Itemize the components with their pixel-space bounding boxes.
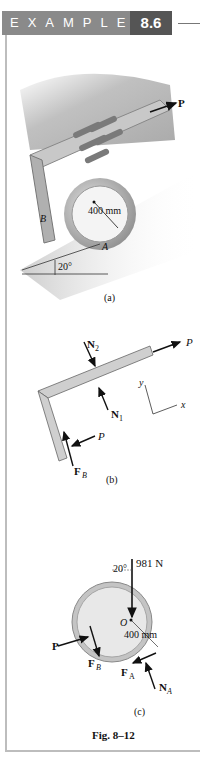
force-p-label: P (178, 97, 185, 109)
n1-label: N (111, 408, 119, 420)
n2-label: N (87, 338, 95, 350)
fb-arrow (64, 432, 73, 466)
caption-a: (a) (104, 292, 115, 304)
point-a-label: A (101, 241, 109, 252)
bracket-arm (38, 346, 153, 398)
p-top-arrow (153, 342, 180, 352)
p-top-label: P (185, 336, 193, 348)
axes (145, 385, 177, 414)
angle-label: 20° (58, 261, 72, 272)
bracket-leg (30, 155, 55, 243)
angle-label: 20° (113, 563, 127, 574)
fb-label: F (88, 657, 95, 669)
weight-label: 981 N (136, 557, 163, 569)
svg-text:B: B (96, 663, 101, 672)
na-label: N (159, 681, 167, 693)
fa-arrow (133, 653, 156, 663)
svg-text:1: 1 (119, 414, 123, 423)
axis-x-label: x (180, 399, 186, 410)
caption-b: (b) (106, 474, 118, 486)
p-bottom-arrow (72, 436, 95, 446)
axis-y-label: y (138, 377, 144, 388)
bracket-leg (38, 391, 67, 461)
radius-label: 400 mm (88, 205, 121, 216)
figure-caption: Fig. 8–12 (92, 729, 135, 741)
p-label: P (52, 640, 59, 652)
svg-text:B: B (82, 471, 87, 480)
p-bottom-label: P (97, 430, 105, 442)
pipe-inner (77, 587, 147, 657)
svg-text:2: 2 (95, 344, 99, 353)
figure-svg: P 400 mm B A 20° (a) N 2 N 1 P P F B y x… (0, 0, 200, 762)
svg-text:A: A (129, 672, 135, 681)
point-b-label: B (40, 213, 46, 224)
caption-c: (c) (134, 706, 145, 718)
radius-label: 400 mm (124, 629, 157, 640)
n1-arrow (99, 388, 108, 410)
na-arrow (146, 663, 155, 689)
fb-label: F (74, 465, 81, 477)
figure-a: P 400 mm B A 20° (a) (20, 74, 200, 304)
svg-text:A: A (166, 687, 172, 696)
figure-c: 981 N 20° O 400 mm P F B F A N A (c) (52, 557, 172, 718)
figure-b: N 2 N 1 P P F B y x (b) (38, 336, 193, 486)
fa-label: F (121, 666, 128, 678)
center-label: O (120, 617, 127, 628)
